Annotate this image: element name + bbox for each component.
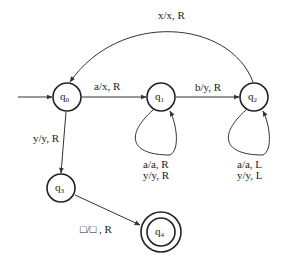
edge-label-q1-loop-2: y/y, R	[143, 169, 170, 181]
edge-label-q0-q1: a/x, R	[94, 80, 121, 92]
edge-label-q1-q2: b/y, R	[195, 81, 222, 93]
edge-q2-loop	[228, 110, 269, 155]
edge-q0-q3	[61, 112, 66, 173]
edge-label-q3-q4: □/□ , R	[80, 223, 113, 235]
edge-q2-q0	[70, 32, 253, 82]
state-q4-final: q4	[141, 212, 181, 252]
edge-label-q2-loop-2: y/y, L	[237, 169, 263, 181]
state-q0: q0	[53, 83, 81, 111]
state-q3: q3	[47, 174, 75, 202]
state-q2: q2	[240, 83, 268, 111]
edge-label-q0-q3: y/y, R	[33, 132, 60, 144]
edge-label-q2-q0: x/x, R	[158, 9, 186, 21]
edge-q3-q4	[75, 195, 140, 225]
state-q1: q1	[147, 83, 175, 111]
state-diagram: a/x, R b/y, R x/x, R y/y, R □/□ , R a/a,…	[0, 0, 284, 269]
edge-q1-loop	[135, 110, 176, 155]
